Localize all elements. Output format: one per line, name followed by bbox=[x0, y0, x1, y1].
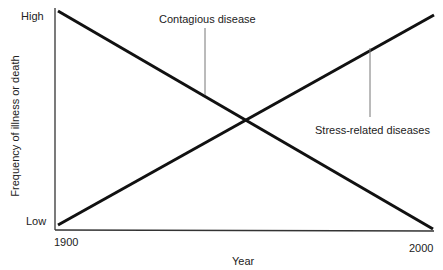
x-tick-2000: 2000 bbox=[409, 242, 433, 254]
x-tick-1900: 1900 bbox=[54, 236, 78, 248]
contagious-disease-label: Contagious disease bbox=[159, 13, 256, 25]
stress-diseases-line bbox=[58, 15, 434, 225]
x-axis-label: Year bbox=[232, 255, 254, 267]
y-tick-low: Low bbox=[26, 215, 46, 227]
stress-diseases-label: Stress-related diseases bbox=[315, 124, 430, 136]
y-tick-high: High bbox=[21, 10, 44, 22]
y-axis-label: Frequency of illness or death bbox=[9, 46, 21, 206]
x-axis bbox=[55, 230, 434, 231]
